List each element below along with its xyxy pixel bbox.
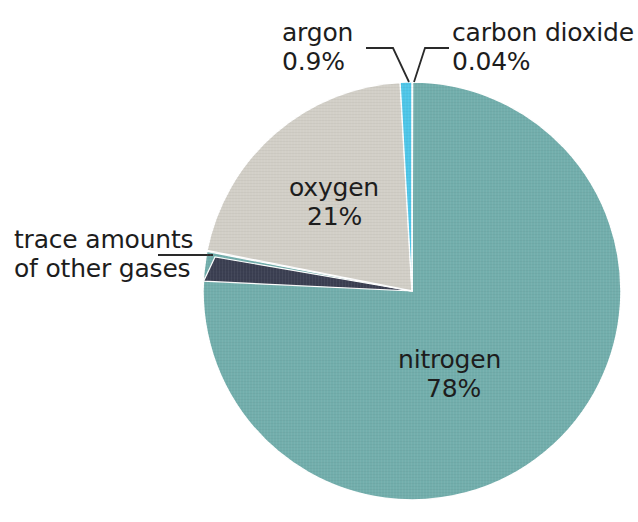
leader-line-carbon-dioxide: [414, 48, 449, 82]
texture-overlay: [203, 82, 621, 500]
pie-chart: argon 0.9% carbon dioxide 0.04% oxygen 2…: [0, 0, 638, 522]
slice-label-carbon-dioxide: carbon dioxide 0.04%: [452, 18, 634, 76]
slice-label-oxygen-name: oxygen: [289, 173, 379, 202]
slice-label-trace-amounts-line1: trace amounts: [14, 225, 193, 254]
slice-label-argon: argon 0.9%: [282, 18, 353, 76]
slice-label-nitrogen-name: nitrogen: [398, 345, 501, 374]
slice-label-trace-amounts-line2: of other gases: [14, 254, 193, 283]
slice-label-oxygen-value: 21%: [307, 202, 379, 231]
leader-line-argon: [366, 48, 409, 82]
slice-label-nitrogen-value: 78%: [426, 374, 501, 403]
slice-label-carbon-dioxide-name: carbon dioxide: [452, 18, 634, 47]
slice-label-nitrogen: nitrogen 78%: [398, 345, 501, 403]
slice-label-argon-name: argon: [282, 18, 353, 47]
slice-label-carbon-dioxide-value: 0.04%: [452, 47, 634, 76]
slice-label-trace-amounts: trace amounts of other gases: [14, 225, 193, 283]
slice-label-oxygen: oxygen 21%: [285, 173, 379, 231]
slice-label-argon-value: 0.9%: [282, 47, 353, 76]
